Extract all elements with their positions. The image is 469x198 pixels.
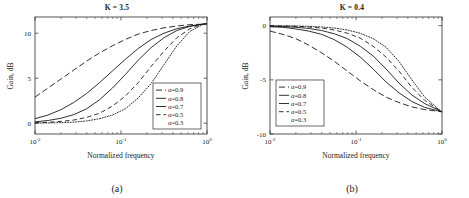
x-tick-label: 10-2 [29,137,41,146]
y-tick-label: 10 [24,30,32,38]
y-tick-label: -10 [257,131,267,139]
y-tick-label: 0 [28,120,32,128]
x-axis-label-a: Normalized frequency [87,151,155,160]
x-tick-label: 10-1 [115,137,127,146]
figure-container: K = 3.5 10-210-11000510 α=0.9α=0.8α=0.7α… [0,0,469,198]
chart-panel-b: K = 0.4 10-210-11000-5-10 α=0.9α=0.8α=0.… [235,0,469,198]
chart-panel-a: K = 3.5 10-210-11000510 α=0.9α=0.8α=0.7α… [0,0,234,198]
x-tick-label: 10-2 [264,137,276,146]
chart-svg-a: 10-210-11000510 α=0.9α=0.8α=0.7α=0.5α=0.… [0,0,234,198]
legend-entry-label: α=0.9 [291,83,306,90]
subfigure-caption-a: (a) [0,183,234,194]
y-axis-label-a: Gain, dB [6,62,15,89]
y-tick-label: 0 [263,22,267,30]
x-tick-label: 100 [437,137,447,146]
x-axis-label-b: Normalized frequency [322,151,390,160]
legend-entry-label: α=0.8 [291,92,306,99]
x-tick-label: 100 [202,137,212,146]
legend-entry-label: α=0.3 [168,119,183,126]
subfigure-caption-b: (b) [235,183,469,194]
x-tick-label: 10-1 [350,137,362,146]
y-axis-label-b: Gain, dB [241,62,250,89]
y-tick-label: 5 [28,75,32,83]
legend-entry-label: α=0.7 [291,100,307,107]
chart-svg-b: 10-210-11000-5-10 α=0.9α=0.8α=0.7α=0.5α=… [235,0,469,198]
legend-entry-label: α=0.5 [168,111,183,118]
legend-entry-label: α=0.8 [168,95,183,102]
legend-entry-label: α=0.5 [291,108,306,115]
y-tick-label: -5 [260,76,266,84]
legend-entry-label: α=0.9 [168,86,183,93]
legend-entry-label: α=0.7 [168,103,184,110]
legend-entry-label: α=0.3 [291,116,306,123]
